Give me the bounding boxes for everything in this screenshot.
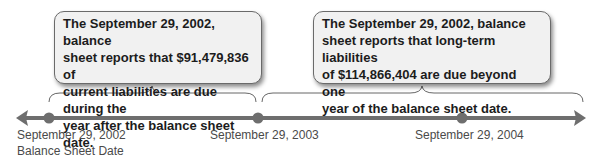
callout-line: The September 29, 2002, balance [322, 15, 542, 32]
callout-line: year of the balance sheet date. [322, 100, 542, 117]
callout-line: The September 29, 2002, balance [63, 15, 253, 49]
callout-line: current liabilities are due during the [63, 83, 253, 117]
callout-line: sheet reports that long-term liabilities [322, 32, 542, 66]
callout-long-term-liabilities: The September 29, 2002, balance sheet re… [313, 11, 551, 84]
timeline-label-2004: September 29, 2004 [415, 127, 524, 143]
callout-line: of $114,866,404 are due beyond one [322, 66, 542, 100]
timeline-dot-2002 [44, 113, 55, 124]
callout-line: sheet reports that $91,479,836 of [63, 49, 253, 83]
date-label: September 29, 2002 [17, 127, 126, 143]
callout-current-liabilities: The September 29, 2002, balance sheet re… [54, 11, 262, 84]
date-sublabel: Balance Sheet Date [17, 143, 126, 156]
timeline-label-2003: September 29, 2003 [210, 127, 319, 143]
timeline-dot-2003 [253, 113, 264, 124]
timeline-label-2002: September 29, 2002 Balance Sheet Date [17, 127, 126, 156]
